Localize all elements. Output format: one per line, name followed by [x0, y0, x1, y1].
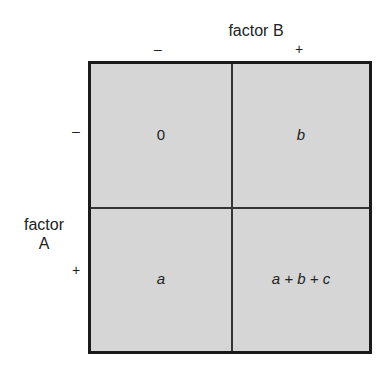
factor-a-label-line2: A	[14, 234, 74, 253]
factor-a-label-line1: factor	[14, 215, 74, 234]
cell-a-minus-b-plus: b	[251, 126, 351, 143]
two-by-two-grid: 0 b a a + b + c	[88, 61, 372, 354]
factor-b-label: factor B	[200, 22, 312, 40]
factor-a-label: factor A	[14, 215, 74, 253]
cell-a-minus-b-minus: 0	[111, 126, 211, 143]
cell-a-plus-b-plus: a + b + c	[251, 270, 351, 287]
factor-a-minus-level: –	[66, 123, 86, 139]
cell-a-plus-b-minus: a	[111, 270, 211, 287]
factor-b-plus-level: +	[289, 41, 309, 57]
factor-a-plus-level: +	[66, 262, 86, 278]
horizontal-divider	[91, 207, 369, 209]
factor-b-minus-level: –	[148, 41, 168, 57]
